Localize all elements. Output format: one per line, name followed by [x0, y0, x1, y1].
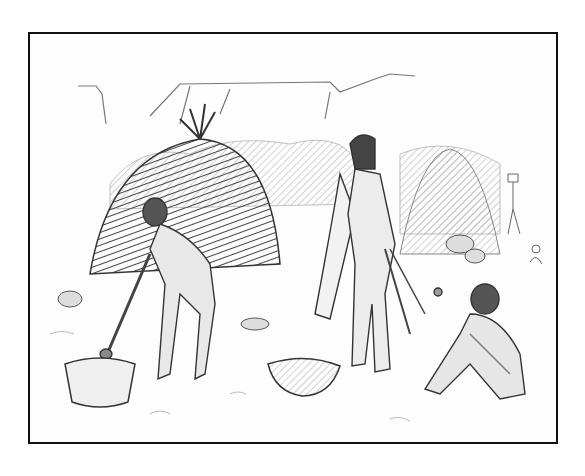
pencil-sketch	[30, 34, 558, 444]
background-figures	[508, 174, 542, 264]
basket	[268, 358, 340, 396]
mortar-bowl	[65, 358, 135, 407]
seated-person	[425, 284, 525, 399]
mesa-cliffs	[78, 74, 415, 124]
illustration-frame: Pencil sketch of indigenous people at a …	[28, 32, 558, 444]
